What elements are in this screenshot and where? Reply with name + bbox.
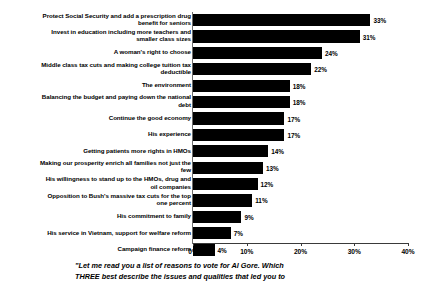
bar	[193, 194, 252, 206]
bar	[193, 162, 263, 174]
bar-value-label: 14%	[268, 148, 284, 155]
bar-track: 24%	[193, 47, 408, 59]
x-tick	[301, 243, 302, 246]
bar-row: Continue the good economy17%	[0, 110, 427, 126]
bar	[193, 112, 284, 124]
bar-category-label: A woman's right to choose	[1, 48, 191, 55]
bar-value-label: 12%	[258, 181, 274, 188]
x-tick-label: 40%	[401, 248, 414, 255]
x-tick-label: 30%	[348, 248, 361, 255]
bar-track: 22%	[193, 63, 408, 75]
bar	[193, 63, 311, 75]
caption-line-2: THREE best describe the issues and quali…	[75, 272, 415, 283]
bar-row: His willingness to stand up to the HMOs,…	[0, 176, 427, 192]
bar-track: 12%	[193, 178, 408, 190]
caption-line-1: "Let me read you a list of reasons to vo…	[75, 261, 415, 272]
bar-category-label: Continue the good economy	[1, 114, 191, 121]
bar-row: His service in Vietnam, support for welf…	[0, 225, 427, 241]
bar-row: His experience17%	[0, 127, 427, 143]
bar-row: A woman's right to choose24%	[0, 45, 427, 61]
bar-category-label: Balancing the budget and paying down the…	[1, 93, 191, 108]
bar-value-label: 31%	[360, 33, 376, 40]
bar	[193, 211, 241, 223]
bar-value-label: 17%	[284, 131, 300, 138]
bar	[193, 14, 370, 26]
bar-track: 17%	[193, 112, 408, 124]
plot-area: Protect Social Security and add a prescr…	[0, 0, 427, 245]
bar-category-label: The environment	[1, 81, 191, 88]
bar-track: 18%	[193, 80, 408, 92]
bar-category-label: Protect Social Security and add a prescr…	[1, 12, 191, 27]
bar-row: Getting patients more rights in HMOs14%	[0, 143, 427, 159]
x-tick-label: 0%	[188, 248, 198, 255]
bar-value-label: 22%	[311, 66, 327, 73]
bar-rows: Protect Social Security and add a prescr…	[0, 12, 427, 258]
x-tick	[408, 243, 409, 246]
bar-track: 9%	[193, 211, 408, 223]
bar-category-label: Campaign finance reform	[1, 245, 191, 252]
bar-track: 13%	[193, 162, 408, 174]
bar-category-label: His commitment to family	[1, 212, 191, 219]
x-tick	[247, 243, 248, 246]
bar-value-label: 33%	[370, 17, 386, 24]
bar-row: Balancing the budget and paying down the…	[0, 94, 427, 110]
bar	[193, 30, 360, 42]
bar-category-label: Invest in education including more teach…	[1, 28, 191, 43]
x-tick	[354, 243, 355, 246]
bar	[193, 145, 268, 157]
bar-row: His commitment to family9%	[0, 209, 427, 225]
bar-value-label: 11%	[252, 197, 267, 204]
bar-value-label: 4%	[215, 246, 227, 253]
x-tick-label: 10%	[240, 248, 253, 255]
bar-value-label: 9%	[241, 213, 253, 220]
bar	[193, 96, 290, 108]
bar-category-label: His service in Vietnam, support for welf…	[1, 229, 191, 236]
bar	[193, 178, 258, 190]
bar-row: Invest in education including more teach…	[0, 28, 427, 44]
bar-value-label: 24%	[322, 49, 338, 56]
bar-track: 33%	[193, 14, 408, 26]
bar-track: 31%	[193, 30, 408, 42]
bar	[193, 129, 284, 141]
bar-track: 14%	[193, 145, 408, 157]
bar-value-label: 7%	[231, 230, 243, 237]
x-tick-label: 20%	[294, 248, 307, 255]
bar	[193, 47, 322, 59]
bar-value-label: 18%	[290, 82, 306, 89]
bar-category-label: Middle class tax cuts and making college…	[1, 61, 191, 76]
bar-chart: Protect Social Security and add a prescr…	[0, 0, 427, 287]
bar-category-label: Getting patients more rights in HMOs	[1, 147, 191, 154]
bar-track: 17%	[193, 129, 408, 141]
bar-row: Middle class tax cuts and making college…	[0, 61, 427, 77]
bar-row: The environment18%	[0, 78, 427, 94]
bar-value-label: 17%	[284, 115, 300, 122]
bar-category-label: His willingness to stand up to the HMOs,…	[1, 175, 191, 190]
bar-row: Opposition to Bush's massive tax cuts fo…	[0, 192, 427, 208]
bar-category-label: His experience	[1, 130, 191, 137]
x-tick	[193, 243, 194, 246]
bar-category-label: Opposition to Bush's massive tax cuts fo…	[1, 192, 191, 207]
bar-row: Protect Social Security and add a prescr…	[0, 12, 427, 28]
bar	[193, 227, 231, 239]
bar-row: Making our prosperity enrich all familie…	[0, 160, 427, 176]
bar-category-label: Making our prosperity enrich all familie…	[1, 159, 191, 174]
chart-caption: "Let me read you a list of reasons to vo…	[75, 261, 415, 282]
bar-track: 11%	[193, 194, 408, 206]
bar	[193, 80, 290, 92]
bar-track: 18%	[193, 96, 408, 108]
bar-value-label: 13%	[263, 164, 279, 171]
bar-value-label: 18%	[290, 99, 306, 106]
bar-track: 7%	[193, 227, 408, 239]
